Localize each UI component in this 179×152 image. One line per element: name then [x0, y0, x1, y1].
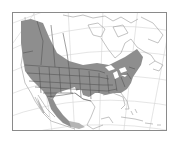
range-map	[12, 12, 167, 131]
map-canvas	[13, 13, 167, 131]
